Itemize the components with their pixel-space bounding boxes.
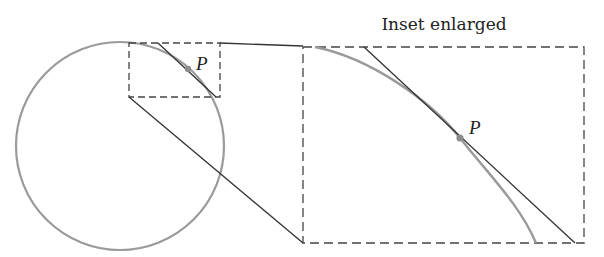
upper-connector-line	[220, 43, 303, 46]
enlarged-point-label: P	[468, 117, 481, 138]
enlarged-tangent-line	[364, 47, 575, 243]
small-point-p	[185, 66, 191, 72]
enlarged-point-p	[456, 134, 463, 141]
lower-connector-line	[129, 97, 303, 243]
enlarged-arc	[315, 47, 536, 243]
small-point-label: P	[195, 53, 208, 74]
circle	[16, 42, 224, 250]
inset-diagram: Inset enlarged P P	[0, 0, 604, 257]
enlarged-inset-box	[303, 47, 584, 243]
inset-title: Inset enlarged	[381, 14, 506, 34]
